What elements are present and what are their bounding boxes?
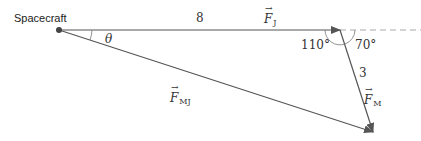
fj-symbol: F [264, 13, 272, 25]
fm-symbol: F [364, 94, 372, 106]
fm-magnitude-label: 3 [359, 67, 367, 79]
angle-110-label: 110° [301, 39, 330, 51]
fmj-label: FMJ [170, 92, 191, 106]
vector-diagram: Spacecraft θ 8 FJ 110° 70° 3 FM FMJ [0, 0, 421, 141]
spacecraft-label: Spacecraft [14, 13, 67, 24]
theta-arc [90, 30, 92, 40]
fm-label: FM [364, 94, 382, 108]
fm-subscript: M [373, 99, 381, 108]
angle-70-arc [345, 30, 355, 44]
theta-label: θ [105, 33, 112, 45]
fmj-subscript: MJ [179, 97, 190, 106]
angle-70-label: 70° [355, 39, 376, 51]
fj-subscript: J [273, 18, 276, 27]
fj-label: FJ [264, 13, 277, 27]
fj-magnitude-label: 8 [196, 12, 204, 24]
spacecraft-dot [56, 27, 62, 33]
fmj-symbol: F [170, 92, 178, 104]
